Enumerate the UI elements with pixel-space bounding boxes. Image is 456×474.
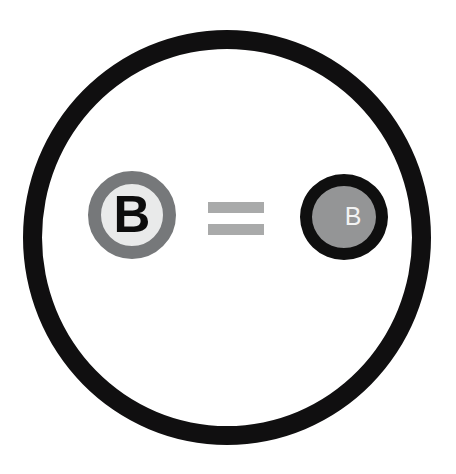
left-token-label: B [114,189,151,240]
left-token-circle[interactable]: B [88,171,176,259]
equals-sign-icon [208,202,264,235]
equals-bar-top [208,202,264,213]
figure-canvas: B B [0,0,456,474]
equals-bar-bottom [208,224,264,235]
right-token-circle[interactable]: B [300,174,388,260]
right-token-label: B [345,204,362,229]
